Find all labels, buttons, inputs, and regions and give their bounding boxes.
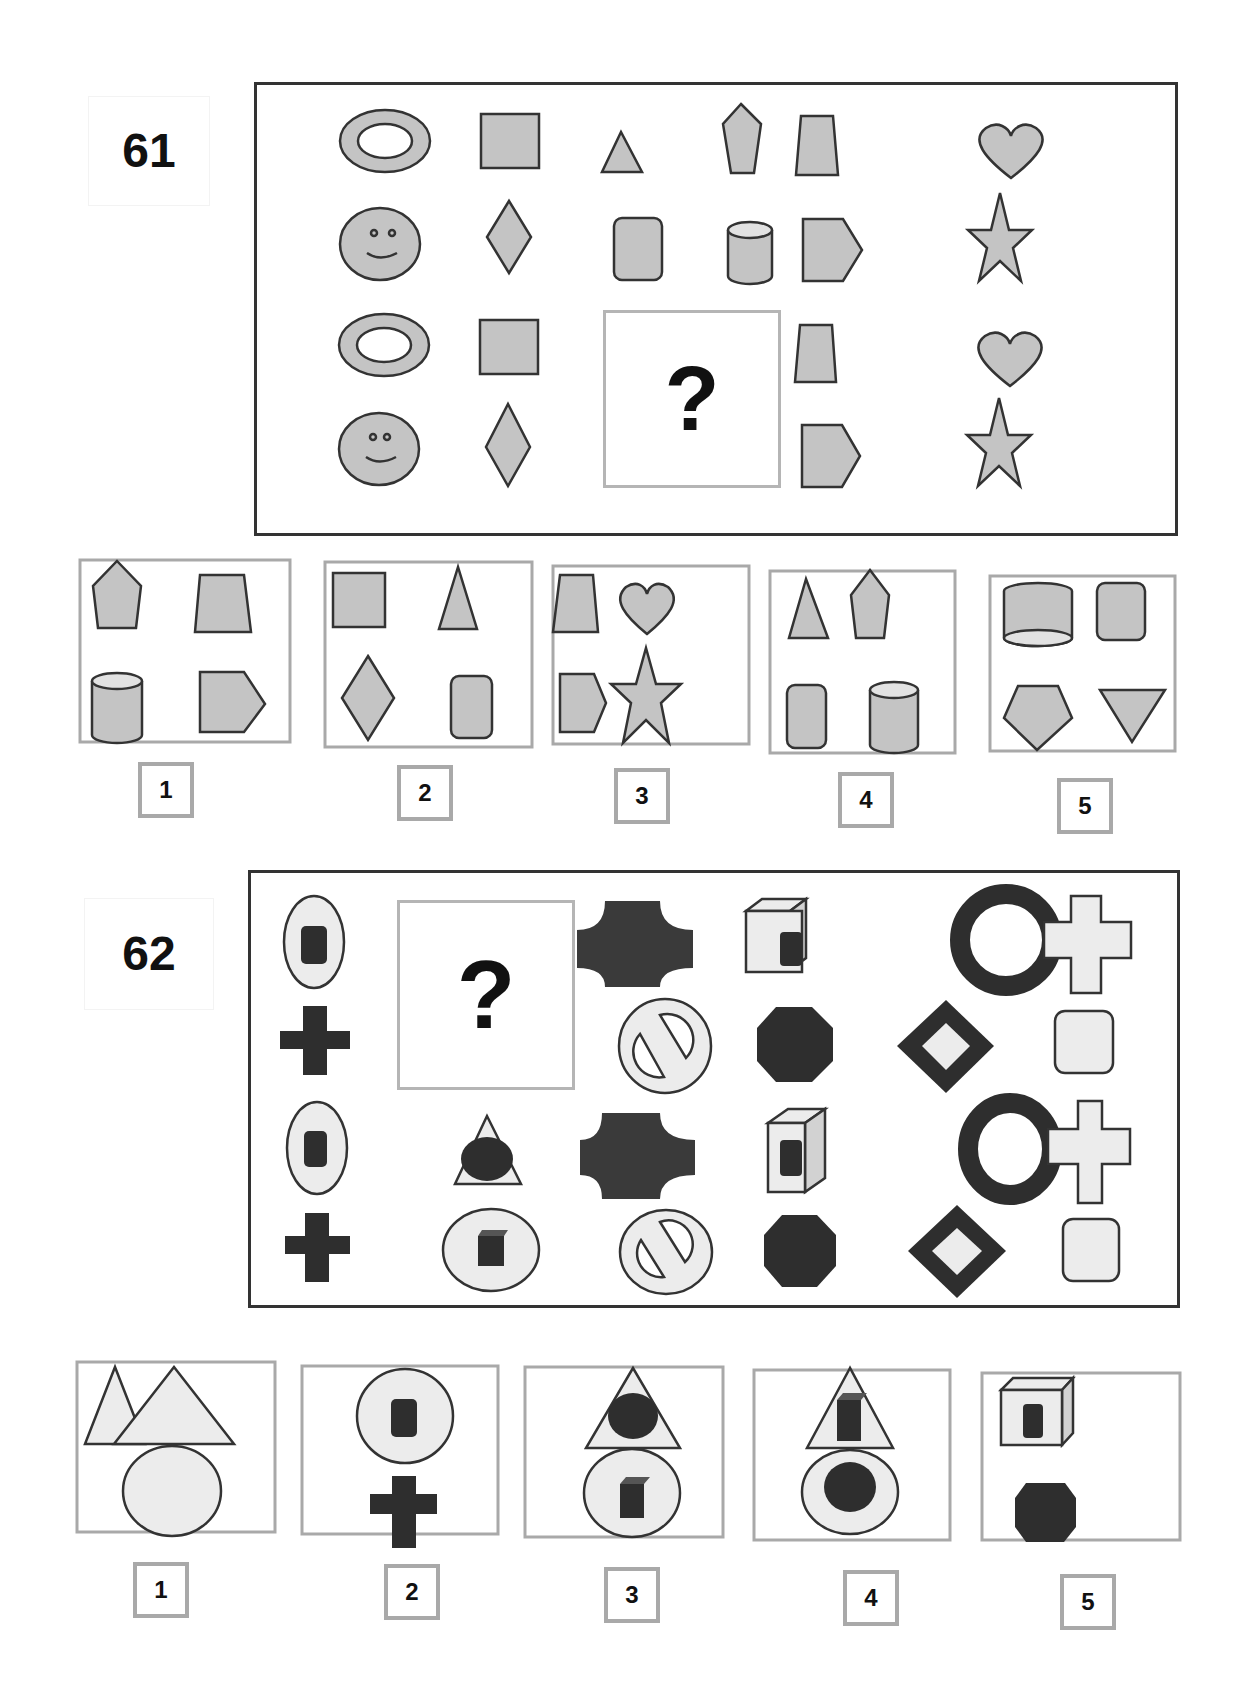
puzzle-62-option-label-4[interactable]: 4 xyxy=(843,1570,899,1626)
puzzle-62-option-label-1[interactable]: 1 xyxy=(133,1562,189,1618)
puzzle-62-option-label-2[interactable]: 2 xyxy=(384,1564,440,1620)
puzzle-62-option-label-5[interactable]: 5 xyxy=(1060,1574,1116,1630)
puzzle-62-options-full xyxy=(0,0,1259,1696)
puzzle-62-option-label-3[interactable]: 3 xyxy=(604,1567,660,1623)
